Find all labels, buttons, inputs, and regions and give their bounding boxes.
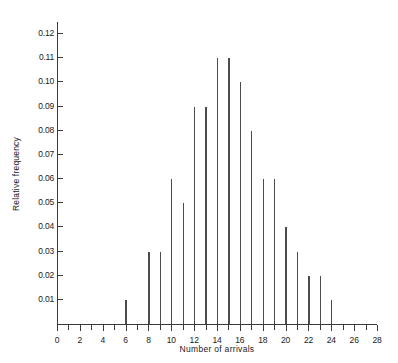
- x-tick-minor: [183, 325, 184, 330]
- relative-frequency-chart: Relative frequency 0.010.020.030.040.050…: [0, 0, 398, 363]
- bar: [308, 276, 309, 324]
- bar: [228, 58, 229, 324]
- bar: [148, 252, 149, 324]
- x-tick: 16: [240, 325, 241, 331]
- x-tick-minor: [137, 325, 138, 330]
- bar: [320, 276, 321, 324]
- x-tick-minor: [114, 325, 115, 330]
- y-tick: 0.06: [58, 178, 63, 179]
- bar: [240, 82, 241, 324]
- y-tick: 0.11: [58, 57, 63, 58]
- x-tick-minor: [228, 325, 229, 330]
- y-tick-label: 0.05: [38, 197, 54, 207]
- y-tick: 0.10: [58, 81, 63, 82]
- x-tick: 0: [57, 325, 58, 331]
- bar: [331, 300, 332, 324]
- x-tick-minor: [251, 325, 252, 330]
- x-tick-minor: [366, 325, 367, 330]
- y-tick-label: 0.08: [38, 125, 54, 135]
- y-axis-line: [57, 22, 58, 325]
- y-tick: 0.12: [58, 33, 63, 34]
- y-tick-label: 0.10: [38, 76, 54, 86]
- x-tick: 24: [331, 325, 332, 331]
- x-tick: 4: [103, 325, 104, 331]
- y-tick-label: 0.06: [38, 173, 54, 183]
- y-axis-label: Relative frequency: [11, 137, 21, 211]
- y-tick: 0.03: [58, 251, 63, 252]
- bar: [251, 131, 252, 324]
- y-tick: 0.04: [58, 226, 63, 227]
- x-tick: 20: [286, 325, 287, 331]
- bar: [160, 252, 161, 324]
- x-tick-minor: [91, 325, 92, 330]
- y-tick: 0.01: [58, 299, 63, 300]
- x-tick: 6: [126, 325, 127, 331]
- x-tick: 2: [80, 325, 81, 331]
- y-tick-label: 0.02: [38, 270, 54, 280]
- y-tick-label: 0.01: [38, 294, 54, 304]
- bar: [171, 179, 172, 324]
- y-tick: 0.07: [58, 154, 63, 155]
- x-tick: 28: [377, 325, 378, 331]
- x-tick: 26: [354, 325, 355, 331]
- x-axis-label: Number of arrivals: [57, 344, 377, 354]
- bar: [297, 252, 298, 324]
- bar: [205, 107, 206, 324]
- y-tick: 0.08: [58, 130, 63, 131]
- y-tick-label: 0.03: [38, 246, 54, 256]
- x-tick-minor: [206, 325, 207, 330]
- x-tick: 18: [263, 325, 264, 331]
- x-tick-minor: [160, 325, 161, 330]
- bar: [274, 179, 275, 324]
- bar: [285, 227, 286, 324]
- y-tick: 0.09: [58, 106, 63, 107]
- bar: [194, 107, 195, 324]
- x-tick-minor: [68, 325, 69, 330]
- x-tick: 22: [308, 325, 309, 331]
- x-tick-minor: [343, 325, 344, 330]
- y-tick-label: 0.07: [38, 149, 54, 159]
- x-tick: 8: [148, 325, 149, 331]
- y-axis-label-container: Relative frequency: [12, 22, 24, 325]
- x-tick: 12: [194, 325, 195, 331]
- y-tick-label: 0.12: [38, 28, 54, 38]
- x-tick: 10: [171, 325, 172, 331]
- y-tick-label: 0.11: [39, 52, 54, 62]
- y-tick-label: 0.04: [38, 221, 54, 231]
- x-tick-minor: [297, 325, 298, 330]
- plot-area: 0.010.020.030.040.050.060.070.080.090.10…: [57, 22, 377, 325]
- bar: [125, 300, 126, 324]
- bar: [263, 179, 264, 324]
- y-tick-label: 0.09: [38, 101, 54, 111]
- x-tick-minor: [274, 325, 275, 330]
- bar: [217, 58, 218, 324]
- bar: [183, 203, 184, 324]
- y-tick: 0.05: [58, 202, 63, 203]
- x-tick: 14: [217, 325, 218, 331]
- y-tick: 0.02: [58, 275, 63, 276]
- x-tick-minor: [320, 325, 321, 330]
